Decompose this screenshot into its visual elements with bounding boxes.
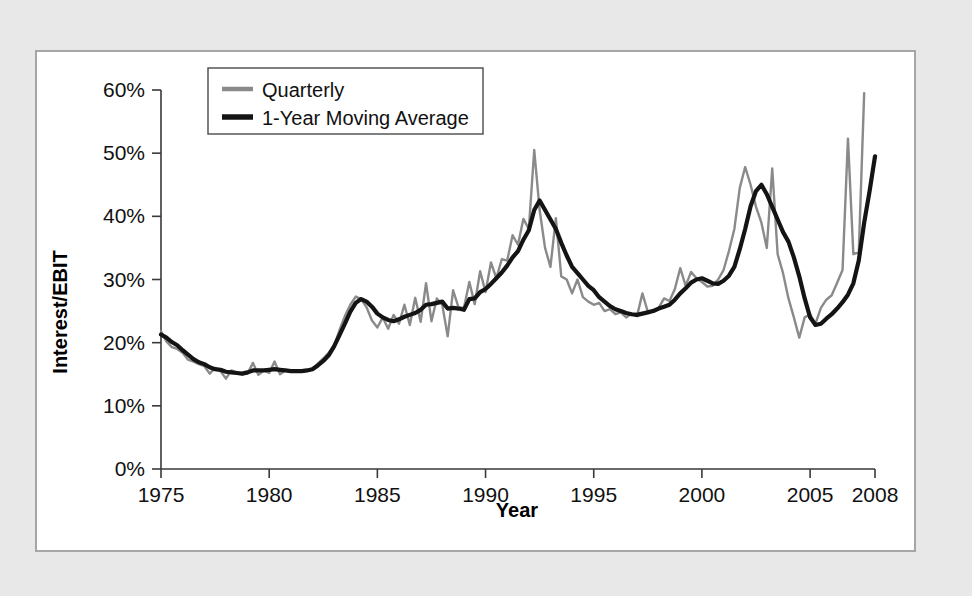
y-tick-label: 20%	[103, 331, 145, 354]
series-moving-average	[161, 156, 875, 373]
interest-ebit-line-chart: Interest/EBIT 0%10%20%30%40%50%60% 19751…	[37, 52, 914, 550]
x-tick-label: 1995	[570, 483, 617, 506]
axis-layer	[152, 90, 875, 478]
y-tick-label: 60%	[103, 78, 145, 101]
y-tick-labels: 0%10%20%30%40%50%60%	[103, 78, 145, 480]
y-tick-label: 50%	[103, 141, 145, 164]
y-axis-title: Interest/EBIT	[49, 250, 71, 373]
x-tick-label: 1980	[246, 483, 293, 506]
x-axis-title: Year	[496, 499, 538, 521]
x-tick-label: 2005	[787, 483, 834, 506]
y-tick-label: 30%	[103, 268, 145, 291]
x-tick-label: 1975	[138, 483, 185, 506]
chart-legend: Quarterly1-Year Moving Average	[208, 68, 483, 134]
figure-outer-frame: Interest/EBIT 0%10%20%30%40%50%60% 19751…	[0, 0, 972, 596]
series-layer	[161, 93, 875, 379]
figure-panel: Interest/EBIT 0%10%20%30%40%50%60% 19751…	[35, 50, 916, 552]
y-tick-label: 0%	[115, 457, 145, 480]
x-tick-label: 2000	[679, 483, 726, 506]
x-tick-label: 2008	[852, 483, 899, 506]
legend-label: Quarterly	[262, 79, 344, 101]
y-tick-label: 10%	[103, 394, 145, 417]
legend-label: 1-Year Moving Average	[262, 107, 469, 129]
y-tick-label: 40%	[103, 204, 145, 227]
axis-spines	[161, 90, 875, 469]
x-tick-label: 1985	[354, 483, 401, 506]
series-quarterly	[161, 93, 864, 379]
